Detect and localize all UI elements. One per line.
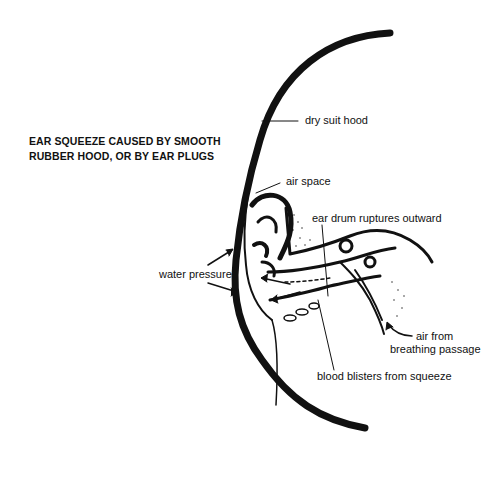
outer-ear [252, 195, 291, 258]
label-breathing-passage: breathing passage [390, 343, 481, 356]
label-blood-blisters: blood blisters from squeeze [317, 370, 452, 383]
label-air-space: air space [286, 175, 331, 188]
label-dry-suit-hood: dry suit hood [305, 114, 368, 127]
ossicle [340, 240, 352, 252]
diagram-title: EAR SQUEEZE CAUSED BY SMOOTH RUBBER HOOD… [29, 134, 221, 164]
label-water-pressure: water pressure [159, 268, 232, 281]
title-line-2: RUBBER HOOD, OR BY EAR PLUGS [29, 149, 221, 164]
leader-air-space [256, 183, 280, 193]
face-outline [244, 195, 272, 320]
leader-ear-drum [322, 225, 328, 296]
title-line-1: EAR SQUEEZE CAUSED BY SMOOTH [29, 134, 221, 149]
label-air-from: air from [416, 330, 453, 343]
stipple [292, 214, 404, 316]
blood-blister [284, 315, 296, 321]
label-ear-drum: ear drum ruptures outward [312, 212, 442, 225]
leader-blood-blisters [318, 300, 334, 370]
ear-squeeze-illustration [0, 0, 501, 477]
